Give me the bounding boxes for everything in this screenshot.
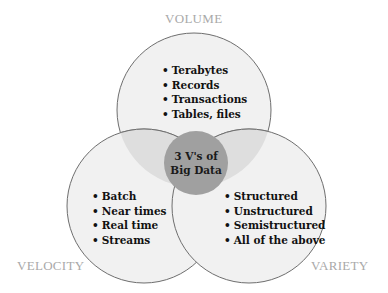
list-item: Near times	[92, 204, 167, 219]
center-line-1: 3 V's of	[164, 149, 228, 163]
list-item: Transactions	[162, 92, 247, 107]
variety-label: VARIETY	[311, 258, 368, 274]
velocity-label: VELOCITY	[17, 258, 84, 274]
list-item: Semistructured	[224, 218, 325, 233]
list-item: Structured	[224, 189, 325, 204]
list-item: Records	[162, 78, 247, 93]
volume-list: Terabytes Records Transactions Tables, f…	[162, 63, 247, 122]
volume-label: VOLUME	[165, 11, 222, 27]
list-item: Terabytes	[162, 63, 247, 78]
venn-diagram	[0, 0, 388, 293]
center-line-2: Big Data	[164, 163, 228, 177]
list-item: Tables, files	[162, 107, 247, 122]
list-item: Streams	[92, 233, 167, 248]
variety-list: Structured Unstructured Semistructured A…	[224, 189, 325, 248]
list-item: Real time	[92, 218, 167, 233]
velocity-list: Batch Near times Real time Streams	[92, 189, 167, 248]
list-item: Batch	[92, 189, 167, 204]
list-item: Unstructured	[224, 204, 325, 219]
center-title: 3 V's of Big Data	[164, 149, 228, 177]
list-item: All of the above	[224, 233, 325, 248]
